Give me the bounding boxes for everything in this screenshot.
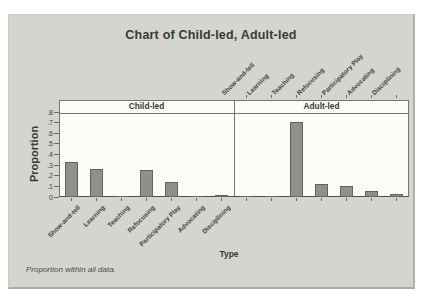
bar-child-led-refocusing [140,170,153,197]
bar-child-led-advocating [190,196,203,197]
y-tick-mark [54,133,59,134]
y-tick-label: .5 [39,139,53,148]
bar-child-led-disciplining [215,195,228,197]
bar-adult-led-disciplining [390,194,403,197]
x-tick-mark-top [346,95,347,98]
bar-child-led-learning [90,169,103,197]
x-tick-mark [371,198,372,201]
x-tick-mark-top [321,95,322,98]
y-tick-label: .4 [39,150,53,159]
bar-child-led-participatory-play [165,182,178,197]
x-tick-mark [246,198,247,201]
x-tick-mark-top [371,95,372,98]
y-tick-label: .3 [39,161,53,170]
x-tick-mark [296,198,297,201]
chart-title: Chart of Child-led, Adult-led [9,28,413,42]
panel-header-child-led: Child-led [59,100,234,112]
y-tick-label: .2 [39,171,53,180]
screen: Chart of Child-led, Adult-led Proportion… [0,0,423,297]
bar-adult-led-refocusing [315,184,328,197]
x-tick-mark [346,198,347,201]
x-tick-mark [221,198,222,201]
y-tick-mark [54,154,59,155]
footnote: Proportion within all data. [26,265,116,274]
bar-adult-led-participatory-play [340,186,353,197]
bar-adult-led-learning [265,196,278,197]
y-tick-label: .7 [39,118,53,127]
x-tick-mark [271,198,272,201]
y-tick-mark [54,122,59,123]
bar-adult-led-teaching [290,122,303,197]
x-tick-mark-top [396,95,397,98]
x-tick-mark [396,198,397,201]
panel-divider [234,101,235,196]
bar-child-led-teaching [115,196,128,197]
panel-header-adult-led: Adult-led [234,100,409,112]
bar-adult-led-advocating [365,191,378,197]
x-tick-mark [146,198,147,201]
bottom-category-label-show-and-tell: Show-and-tell [45,203,81,239]
y-tick-mark [54,143,59,144]
y-tick-mark [54,197,59,198]
y-tick-label: .8 [39,108,53,117]
y-tick-label: .1 [39,182,53,191]
top-category-label-teaching: Teaching [269,71,295,97]
top-category-label-learning: Learning [244,71,270,97]
x-tick-mark-top [246,95,247,98]
x-tick-mark [71,198,72,201]
plot-area [59,100,409,197]
x-tick-mark [96,198,97,201]
y-tick-mark [54,186,59,187]
chart-card: Chart of Child-led, Adult-led Proportion… [8,14,415,289]
x-tick-mark-top [271,95,272,98]
y-tick-label: 0 [39,193,53,202]
x-axis-title: Type [219,249,238,259]
x-tick-mark [171,198,172,201]
bar-adult-led-show-and-tell [240,196,253,197]
x-tick-mark [196,198,197,201]
y-tick-label: .6 [39,129,53,138]
y-tick-mark [54,165,59,166]
x-tick-mark-top [296,95,297,98]
x-tick-mark [321,198,322,201]
bar-child-led-show-and-tell [65,162,78,197]
y-tick-mark [54,175,59,176]
bottom-category-label-learning: Learning [81,203,107,229]
x-tick-mark [121,198,122,201]
